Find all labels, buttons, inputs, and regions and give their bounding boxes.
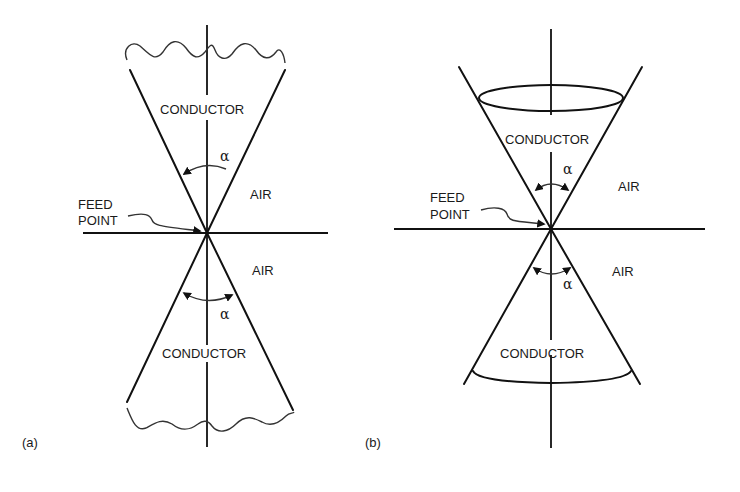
angle-arc-bottom-b (534, 268, 570, 274)
biconical-antenna-figure: CONDUCTOR α AIR FEED POINT AIR α CONDUCT… (0, 0, 740, 492)
label-feed-a: FEED (78, 197, 113, 212)
cone-edge-upper-right-a (207, 70, 285, 233)
label-conductor-bottom-a: CONDUCTOR (162, 346, 246, 361)
wavy-break-bottom-a (127, 408, 294, 431)
panel-a: CONDUCTOR α AIR FEED POINT AIR α CONDUCT… (22, 25, 328, 450)
label-alpha-top-b: α (563, 161, 573, 177)
label-alpha-bottom-b: α (563, 276, 573, 292)
feed-pointer-b (481, 208, 544, 224)
label-point-b: POINT (430, 207, 470, 222)
label-air-lower-b: AIR (612, 264, 634, 279)
label-conductor-top-b: CONDUCTOR (505, 132, 589, 147)
label-alpha-top-a: α (220, 148, 230, 164)
cone-edge-upper-left-b (459, 67, 551, 229)
panel-b: CONDUCTOR α AIR FEED POINT AIR α CONDUCT… (365, 29, 705, 450)
wavy-break-top-a (126, 42, 285, 63)
angle-arc-top-b (536, 184, 568, 190)
cone-cap-arc-bottom-b (473, 371, 631, 383)
feed-pointer-a (128, 214, 200, 231)
label-air-upper-b: AIR (618, 179, 640, 194)
label-conductor-top-a: CONDUCTOR (160, 102, 244, 117)
label-air-lower-a: AIR (252, 263, 274, 278)
label-feed-b: FEED (430, 190, 465, 205)
cone-edge-lower-left-a (127, 233, 207, 402)
angle-arc-bottom-a (184, 293, 232, 301)
caption-a: (a) (22, 435, 38, 450)
angle-arc-top-a (184, 165, 226, 174)
label-conductor-bottom-b: CONDUCTOR (500, 346, 584, 361)
caption-b: (b) (365, 435, 381, 450)
cone-edge-upper-left-a (130, 70, 207, 233)
label-air-upper-a: AIR (250, 187, 272, 202)
label-alpha-bottom-a: α (220, 306, 230, 322)
cone-edge-upper-right-b (551, 67, 642, 229)
label-point-a: POINT (78, 213, 118, 228)
